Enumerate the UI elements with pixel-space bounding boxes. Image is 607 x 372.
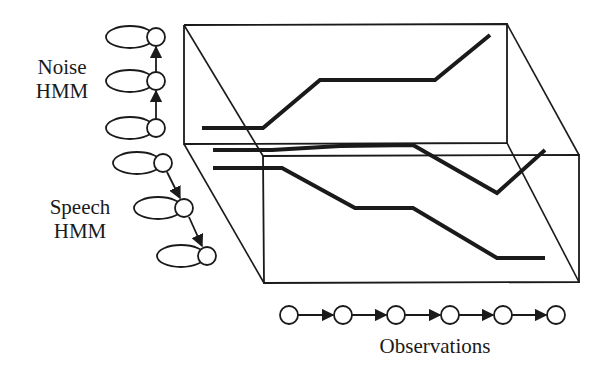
front-face <box>263 155 579 283</box>
noise-trajectory <box>202 35 490 128</box>
noise-label-line2: HMM <box>22 79 102 103</box>
observation-node <box>494 306 512 324</box>
noise-state-node <box>147 28 165 46</box>
speech-state-node <box>154 154 172 172</box>
depth-edges <box>184 24 579 283</box>
noise-state-node <box>147 72 165 90</box>
speech-label-line2: HMM <box>40 219 120 243</box>
observations-label: Observations <box>360 334 510 358</box>
noise-hmm <box>106 26 165 139</box>
observation-chain <box>280 306 565 324</box>
speech-state-node <box>175 199 193 217</box>
speech-transition-arrow <box>167 172 180 198</box>
noise-hmm-label: Noise HMM <box>22 55 102 103</box>
noise-state-node <box>147 119 165 137</box>
observation-node <box>547 306 565 324</box>
observation-node <box>280 306 298 324</box>
noise-label-line1: Noise <box>22 55 102 79</box>
observation-node <box>387 306 405 324</box>
speech-hmm <box>113 152 216 267</box>
observation-node <box>334 306 352 324</box>
observation-node <box>441 306 459 324</box>
speech-state-node <box>198 247 216 265</box>
speech-transition-arrow <box>189 217 202 246</box>
factorial-hmm-diagram: Noise HMM Speech HMM Observations <box>0 0 607 372</box>
speech-label-line1: Speech <box>40 195 120 219</box>
speech-hmm-label: Speech HMM <box>40 195 120 243</box>
